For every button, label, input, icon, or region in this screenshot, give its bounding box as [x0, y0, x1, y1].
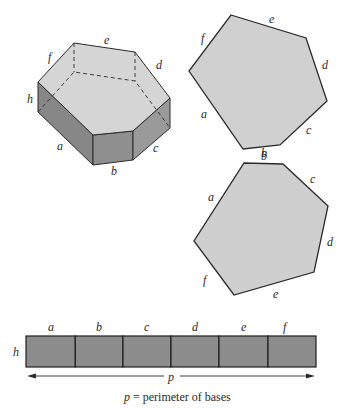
- bottom-base-label-b: b: [261, 149, 267, 163]
- bottom-base-label-a: a: [208, 190, 214, 204]
- prism-label-b: b: [111, 164, 117, 178]
- bottom-base-label-e: e: [273, 287, 279, 301]
- top-base-label-c: c: [306, 123, 312, 137]
- prism-label-f: f: [48, 50, 53, 64]
- top-base-label-e: e: [269, 12, 275, 26]
- net-face-a: [26, 336, 75, 367]
- net-label-e: e: [241, 320, 247, 334]
- lateral-face-net: a b c d e f h p: [13, 320, 316, 384]
- bottom-base-label-c: c: [310, 172, 316, 186]
- net-face-e: [219, 336, 268, 367]
- bottom-base-label-f: f: [203, 273, 208, 287]
- net-label-d: d: [192, 320, 199, 334]
- hexagonal-prism: e f d h a b c: [27, 33, 170, 178]
- perimeter-label: p: [167, 370, 174, 384]
- net-label-f: f: [283, 320, 288, 334]
- prism-diagram: e f d h a b c e f d a c b b c a d f e a …: [0, 0, 341, 409]
- caption-text: = perimeter of bases: [130, 390, 231, 404]
- net-face-d: [171, 336, 219, 367]
- top-base-label-f: f: [201, 31, 206, 45]
- bottom-base-shape: [194, 163, 328, 295]
- prism-label-a: a: [57, 139, 63, 153]
- top-base-label-a: a: [201, 107, 207, 121]
- net-face-b: [75, 336, 123, 367]
- top-base-label-d: d: [322, 58, 329, 72]
- prism-label-d: d: [156, 58, 163, 72]
- net-face-f: [268, 336, 316, 367]
- prism-label-h: h: [27, 92, 33, 106]
- net-face-c: [123, 336, 171, 367]
- bottom-base-label-d: d: [327, 235, 334, 249]
- bottom-base-hexagon: b c a d f e: [194, 149, 334, 301]
- prism-face-b: [93, 131, 133, 165]
- net-label-a: a: [48, 320, 54, 334]
- caption-variable: p: [123, 390, 130, 404]
- prism-label-e: e: [104, 33, 110, 47]
- net-label-c: c: [144, 320, 150, 334]
- net-label-h: h: [13, 345, 19, 359]
- top-base-hexagon: e f d a c b: [189, 12, 329, 160]
- net-label-b: b: [96, 320, 102, 334]
- prism-label-c: c: [153, 141, 159, 155]
- caption: p = perimeter of bases: [123, 390, 231, 404]
